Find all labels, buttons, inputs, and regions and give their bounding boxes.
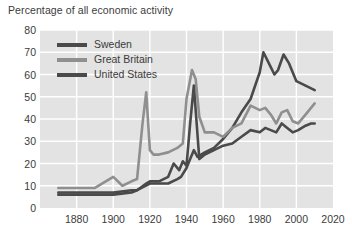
- x-axis-tick-label: 2000: [285, 213, 308, 225]
- legend-item: Great Britain: [57, 53, 157, 66]
- legend-item-label: Great Britain: [94, 53, 153, 66]
- legend-swatch-icon: [57, 43, 87, 47]
- y-axis-tick-label: 40: [6, 113, 36, 125]
- x-axis-tick-labels: 18801900192019401960198020002020: [0, 213, 352, 233]
- x-axis-tick-label: 1940: [175, 213, 198, 225]
- y-axis-tick-label: 80: [6, 24, 36, 36]
- chart-legend: SwedenGreat BritainUnited States: [57, 38, 157, 83]
- legend-item-label: United States: [94, 68, 157, 81]
- x-axis-tick-label: 1960: [211, 213, 234, 225]
- y-axis-tick-label: 10: [6, 180, 36, 192]
- legend-item: Sweden: [57, 38, 157, 51]
- legend-item-label: Sweden: [94, 38, 132, 51]
- x-axis-tick-label: 1920: [138, 213, 161, 225]
- y-axis-tick-labels: 01020304050607080: [4, 0, 36, 241]
- y-axis-tick-label: 30: [6, 135, 36, 147]
- y-axis-tick-label: 50: [6, 91, 36, 103]
- legend-swatch-icon: [57, 58, 87, 62]
- y-axis-tick-label: 60: [6, 69, 36, 81]
- x-axis-tick-label: 1880: [65, 213, 88, 225]
- x-axis-tick-label: 1900: [102, 213, 125, 225]
- y-axis-tick-label: 70: [6, 46, 36, 58]
- y-axis-tick-label: 20: [6, 158, 36, 170]
- economic-activity-line-chart: Percentage of all economic activity 0102…: [0, 0, 352, 241]
- legend-item: United States: [57, 68, 157, 81]
- x-axis-tick-label: 2020: [321, 213, 344, 225]
- plot-area: [0, 0, 352, 241]
- x-axis-tick-label: 1980: [248, 213, 271, 225]
- legend-swatch-icon: [57, 73, 87, 77]
